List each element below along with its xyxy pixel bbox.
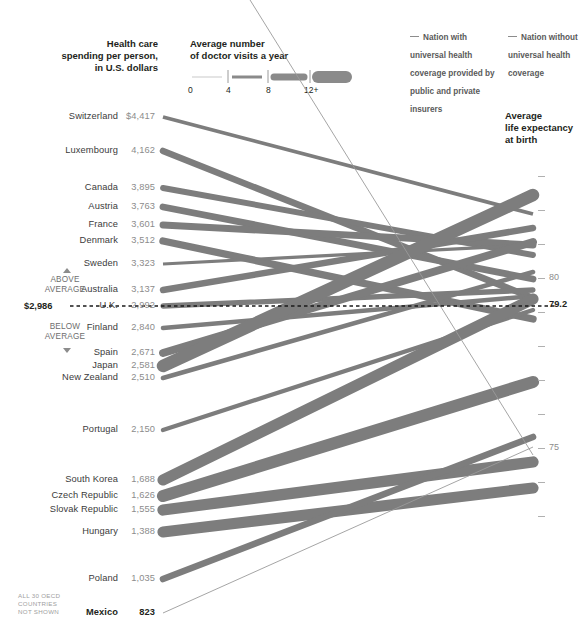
average-spending-value: $2,986 <box>24 301 52 311</box>
slope-line <box>163 382 533 496</box>
country-spending-value: $4,417 <box>0 111 155 121</box>
slope-lines-svg <box>0 0 588 641</box>
country-spending-value: 4,162 <box>0 145 155 155</box>
country-spending-value: 1,688 <box>0 474 155 484</box>
country-spending-value: 2,581 <box>0 360 155 370</box>
slope-line <box>163 462 533 510</box>
above-average-label: ABOVE AVERAGE <box>32 275 98 295</box>
axis-tick <box>538 346 545 347</box>
below-average-arrow-icon <box>63 348 71 353</box>
axis-tick <box>538 448 545 449</box>
below-average-label: BELOW AVERAGE <box>32 322 98 342</box>
country-spending-value: 3,895 <box>0 182 155 192</box>
footnote: ALL 30 OECD COUNTRIES NOT SHOWN <box>18 592 88 616</box>
country-spending-value: 3,601 <box>0 219 155 229</box>
axis-tick <box>538 312 545 313</box>
axis-tick <box>538 244 545 245</box>
country-spending-value: 2,671 <box>0 347 155 357</box>
axis-tick <box>538 516 545 517</box>
axis-tick <box>538 176 545 177</box>
axis-tick-label: 79.2 <box>549 299 567 309</box>
above-average-arrow-icon <box>63 268 71 273</box>
slopegraph-figure: Health care spending per person, in U.S.… <box>0 0 588 641</box>
axis-tick <box>538 414 545 415</box>
axis-tick <box>538 482 545 483</box>
country-spending-value: 2,150 <box>0 424 155 434</box>
country-spending-value: 3,763 <box>0 201 155 211</box>
country-spending-value: 2,510 <box>0 372 155 382</box>
country-spending-value: 1,035 <box>0 573 155 583</box>
axis-tick <box>538 210 545 211</box>
axis-tick <box>538 380 545 381</box>
axis-tick-label: 75 <box>549 442 559 452</box>
country-spending-value: 1,555 <box>0 504 155 514</box>
country-spending-value: 3,323 <box>0 258 155 268</box>
country-spending-value: 3,512 <box>0 235 155 245</box>
axis-tick-label: 80 <box>549 272 559 282</box>
country-spending-value: 1,626 <box>0 490 155 500</box>
axis-tick <box>538 278 545 279</box>
country-spending-value: 1,388 <box>0 526 155 536</box>
